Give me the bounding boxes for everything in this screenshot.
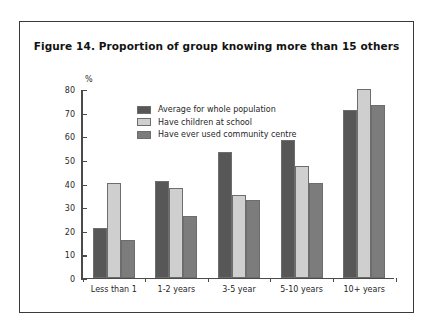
legend-item[interactable]: Have children at school xyxy=(137,118,297,127)
x-axis-tick-mark xyxy=(208,278,209,282)
bar[interactable] xyxy=(93,228,107,278)
y-axis-tick-label: 60 xyxy=(65,133,75,142)
x-axis-line xyxy=(81,278,394,280)
legend-swatch xyxy=(137,106,151,114)
y-axis-tick-label: 40 xyxy=(65,180,75,189)
legend-item[interactable]: Have ever used community centre xyxy=(137,130,297,139)
figure-frame: Figure 14. Proportion of group knowing m… xyxy=(19,21,414,313)
legend-label: Have ever used community centre xyxy=(158,130,297,139)
bar[interactable] xyxy=(281,140,295,277)
y-axis-tick-label: 50 xyxy=(65,156,75,165)
x-axis-tick-label: Less than 1 xyxy=(91,285,137,294)
bar[interactable] xyxy=(169,188,183,278)
bar-group: 10+ years xyxy=(333,90,396,278)
legend-swatch xyxy=(137,118,151,126)
bar[interactable] xyxy=(295,166,309,277)
chart-title: Figure 14. Proportion of group knowing m… xyxy=(20,40,413,52)
bar[interactable] xyxy=(218,152,232,277)
y-axis-tick-label: 10 xyxy=(65,251,75,260)
x-axis-tick-mark xyxy=(333,278,334,282)
bar-group: Less than 1 xyxy=(83,90,146,278)
bar[interactable] xyxy=(155,181,169,278)
x-axis-tick-label: 5-10 years xyxy=(280,285,323,294)
chart-legend: Average for whole populationHave childre… xyxy=(137,105,297,143)
legend-label: Average for whole population xyxy=(158,105,276,114)
bar[interactable] xyxy=(371,105,385,277)
legend-item[interactable]: Average for whole population xyxy=(137,105,297,114)
x-axis-tick-mark xyxy=(145,278,146,282)
y-axis-tick-label: 30 xyxy=(65,204,75,213)
x-axis-tick-label: 10+ years xyxy=(343,285,384,294)
y-axis-tick-label: 70 xyxy=(65,109,75,118)
bar[interactable] xyxy=(309,183,323,278)
y-axis-tick-label: 80 xyxy=(65,86,75,95)
x-axis-tick-mark xyxy=(83,278,84,282)
x-axis-tick-mark xyxy=(270,278,271,282)
legend-label: Have children at school xyxy=(158,118,252,127)
x-axis-tick-label: 3-5 year xyxy=(222,285,255,294)
y-axis-tick-label: 0 xyxy=(70,275,75,284)
x-axis-tick-label: 1-2 years xyxy=(158,285,196,294)
bar[interactable] xyxy=(183,216,197,277)
x-axis-tick-mark xyxy=(396,278,397,282)
bar[interactable] xyxy=(121,240,135,278)
bar[interactable] xyxy=(246,200,260,278)
y-axis-unit-label: % xyxy=(85,75,93,84)
y-axis-tick-label: 20 xyxy=(65,227,75,236)
bar[interactable] xyxy=(357,89,371,278)
bar[interactable] xyxy=(107,183,121,278)
bar[interactable] xyxy=(232,195,246,278)
legend-swatch xyxy=(137,131,151,139)
bar[interactable] xyxy=(343,110,357,278)
